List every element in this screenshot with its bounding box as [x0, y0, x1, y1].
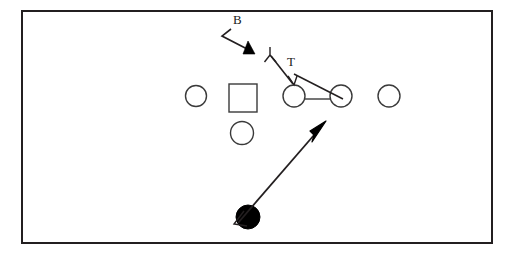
label-target: T — [287, 54, 295, 69]
diagram-frame — [22, 11, 492, 243]
play-diagram-svg: B T — [0, 0, 512, 256]
play-diagram-canvas: B T — [0, 0, 512, 256]
label-blocker: B — [233, 12, 242, 27]
